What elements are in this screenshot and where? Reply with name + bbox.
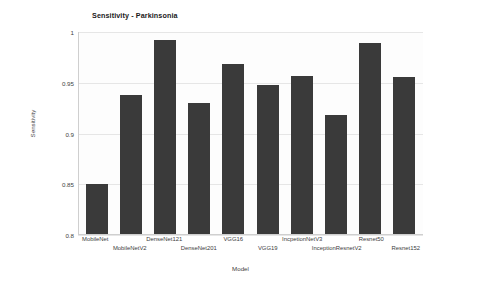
- bar-vgg19: [257, 85, 279, 235]
- x-tick-label-resnet152: Resnet152: [392, 245, 421, 251]
- y-axis-line: [78, 32, 79, 235]
- x-axis-tick-labels: MobileNetMobileNetV2DenseNet121DenseNet2…: [78, 236, 423, 258]
- x-tick-label-inceptionresnetv2: InceptionResnetV2: [312, 245, 362, 251]
- bar-series: [78, 32, 423, 235]
- bar-densenet201: [188, 103, 210, 235]
- y-axis-title: Sensitivity: [29, 89, 36, 159]
- x-tick-label-incpetionnetv3: IncpetionNetV3: [282, 236, 322, 242]
- y-tick-label: 1: [71, 29, 74, 36]
- x-axis-line: [78, 234, 423, 235]
- x-axis-title: Model: [0, 265, 481, 272]
- x-tick-label-vgg19: VGG19: [258, 245, 278, 251]
- plot-area: [78, 32, 423, 235]
- bar-vgg16: [222, 64, 244, 235]
- y-tick-label: 0.9: [65, 130, 74, 137]
- x-tick-label-densenet121: DenseNet121: [146, 236, 182, 242]
- bar-densenet121: [154, 40, 176, 235]
- chart-title: Sensitivity - Parkinsonia: [92, 11, 178, 20]
- chart-figure: Sensitivity - Parkinsonia 0.80.850.90.95…: [0, 0, 481, 283]
- bar-inceptionresnetv2: [325, 115, 347, 235]
- x-tick-label-densenet201: DenseNet201: [181, 245, 217, 251]
- bar-mobilenetv2: [120, 95, 142, 235]
- bar-incpetionnetv3: [291, 76, 313, 235]
- bar-resnet152: [393, 77, 415, 235]
- x-tick-label-vgg16: VGG16: [223, 236, 243, 242]
- bar-mobilenet: [86, 184, 108, 235]
- y-tick-label: 0.8: [65, 232, 74, 239]
- x-tick-label-resnet50: Resnet50: [359, 236, 384, 242]
- y-tick-label: 0.95: [62, 79, 74, 86]
- x-tick-label-mobilenet: MobileNet: [82, 236, 109, 242]
- x-tick-label-mobilenetv2: MobileNetV2: [113, 245, 147, 251]
- bar-resnet50: [359, 43, 381, 235]
- y-tick-label: 0.85: [62, 181, 74, 188]
- y-axis-tick-labels: 0.80.850.90.951: [46, 32, 74, 235]
